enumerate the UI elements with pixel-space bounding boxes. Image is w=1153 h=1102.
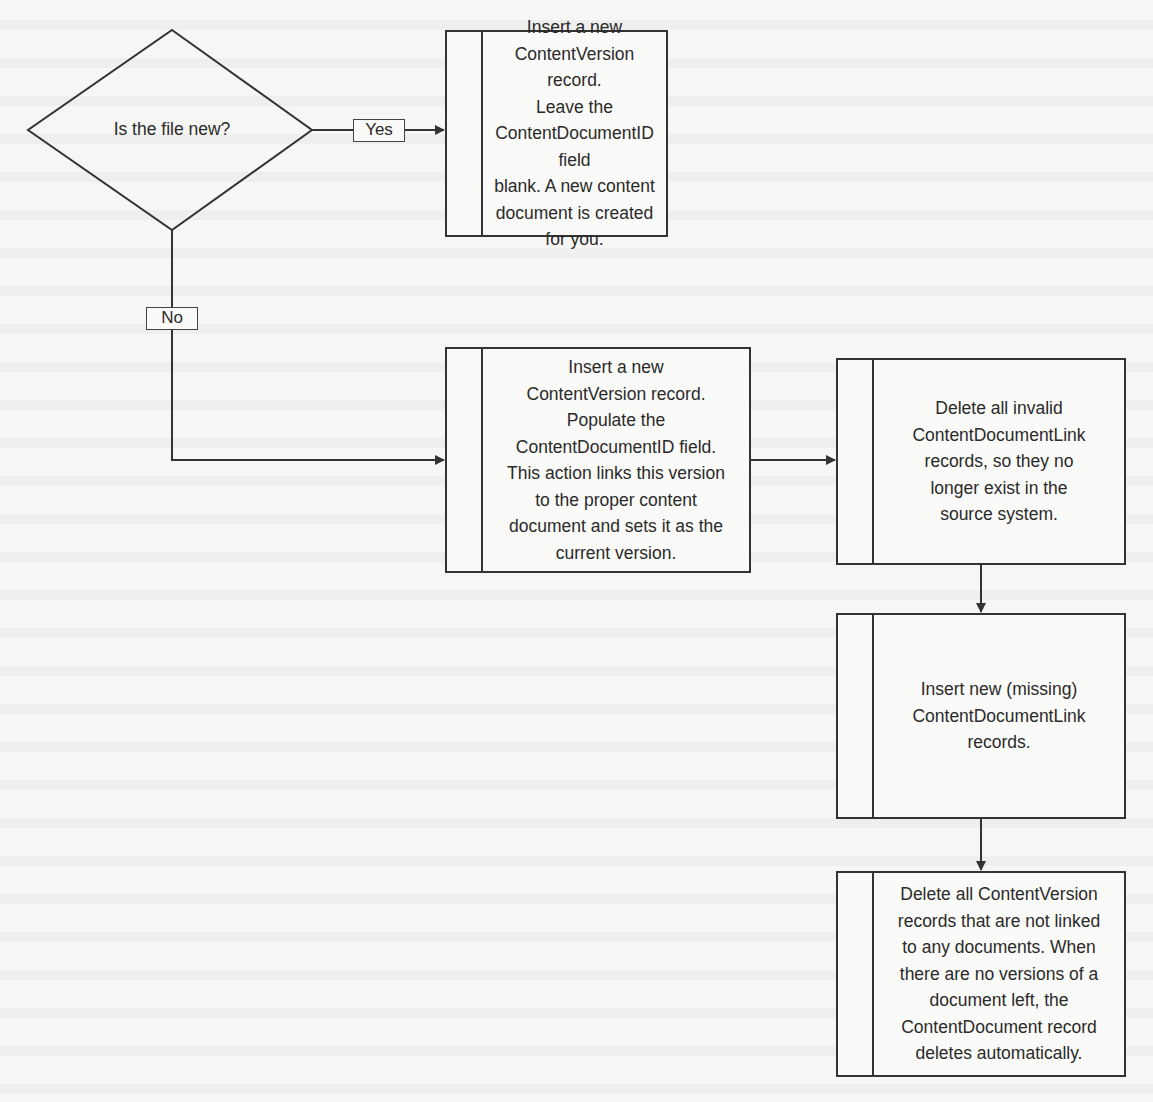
process-stripe bbox=[838, 873, 874, 1075]
step-text: Delete all invalid ContentDocumentLink r… bbox=[874, 360, 1124, 563]
process-stripe bbox=[838, 360, 874, 563]
step-delete-unlinked-versions: Delete all ContentVersion records that a… bbox=[836, 871, 1126, 1077]
step-text: Insert a new ContentVersion record. Popu… bbox=[483, 349, 749, 571]
step-insert-version-new-document: Insert a new ContentVersion record. Leav… bbox=[445, 30, 668, 237]
process-stripe bbox=[838, 615, 874, 817]
step-text: Delete all ContentVersion records that a… bbox=[874, 873, 1124, 1075]
step-insert-missing-links: Insert new (missing) ContentDocumentLink… bbox=[836, 613, 1126, 819]
step-delete-invalid-links: Delete all invalid ContentDocumentLink r… bbox=[836, 358, 1126, 565]
process-stripe bbox=[447, 349, 483, 571]
step-text: Insert new (missing) ContentDocumentLink… bbox=[874, 615, 1124, 817]
process-stripe bbox=[447, 32, 483, 235]
no-connector bbox=[172, 230, 444, 460]
yes-label: Yes bbox=[353, 119, 405, 142]
decision-question: Is the file new? bbox=[60, 119, 284, 140]
step-text: Insert a new ContentVersion record. Leav… bbox=[483, 32, 666, 235]
no-label: No bbox=[146, 307, 198, 330]
step-insert-version-existing-document: Insert a new ContentVersion record. Popu… bbox=[445, 347, 751, 573]
